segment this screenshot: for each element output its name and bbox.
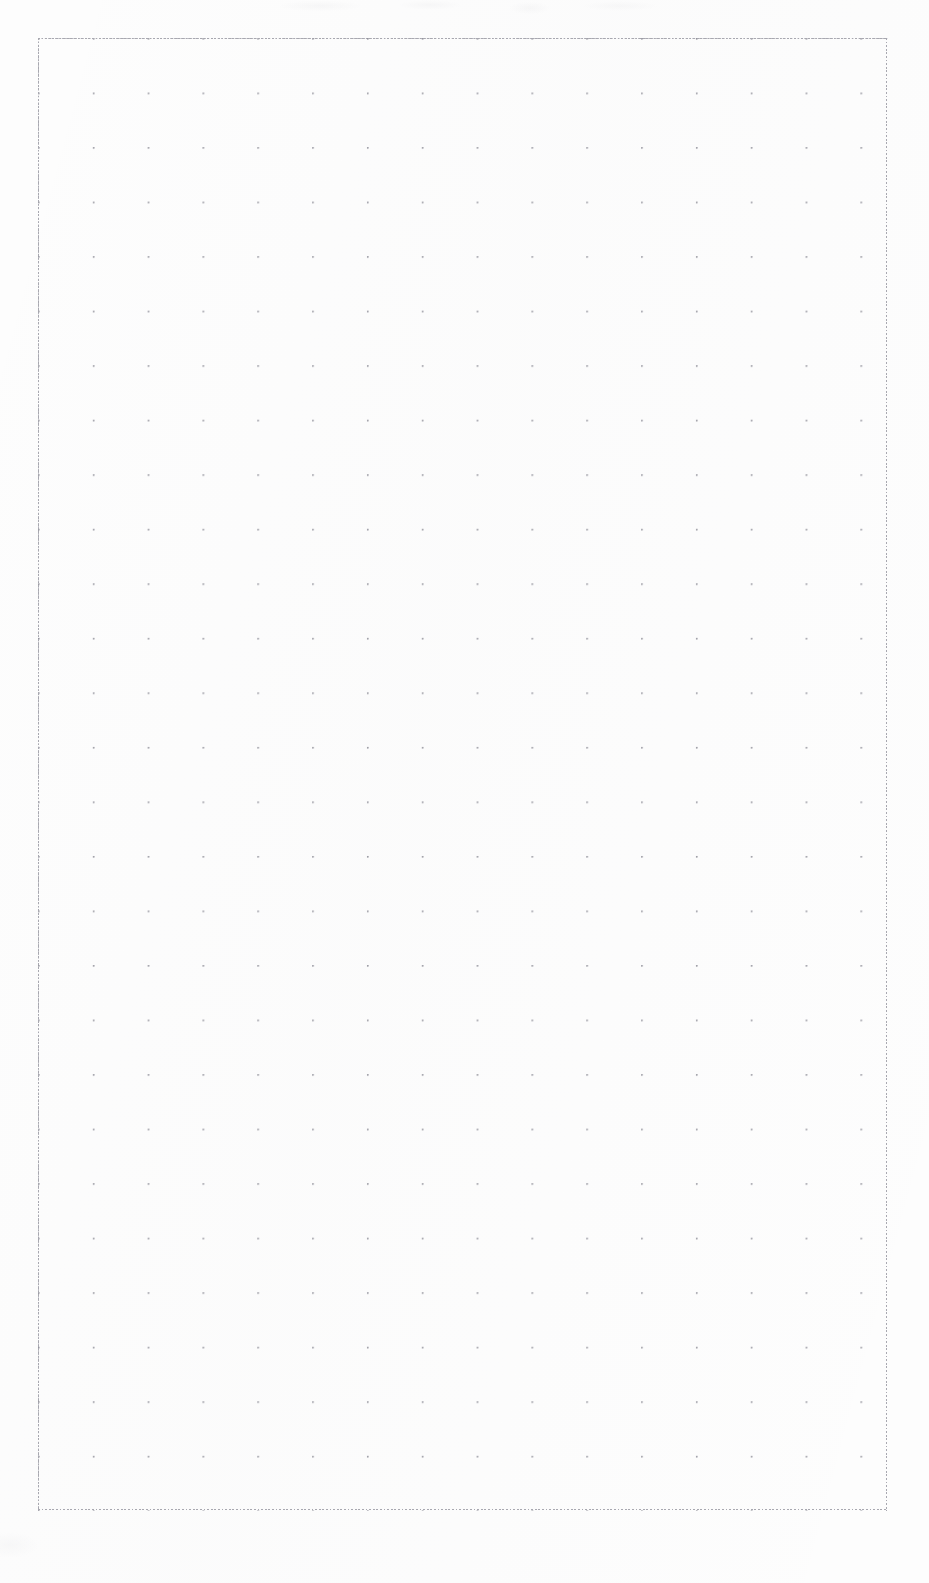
scan-artifact-top-margin [280,0,700,18]
grid-intersection-dots [38,38,888,1511]
scanned-paper-sheet [0,0,929,1583]
grid-paper-block [38,38,888,1511]
scan-artifact-bottom-margin [0,1525,120,1575]
